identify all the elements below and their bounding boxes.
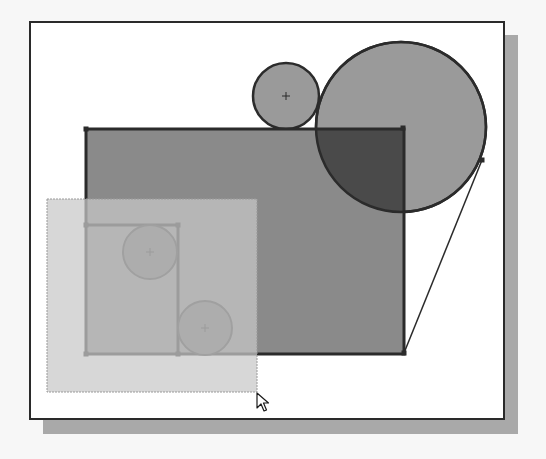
endpoint-marker[interactable] [480,158,485,163]
endpoint-marker[interactable] [402,351,407,356]
endpoint-marker[interactable] [84,127,89,132]
selection-window-box [47,199,257,392]
endpoint-marker[interactable] [401,126,406,131]
cad-sketch-canvas[interactable] [0,0,546,459]
